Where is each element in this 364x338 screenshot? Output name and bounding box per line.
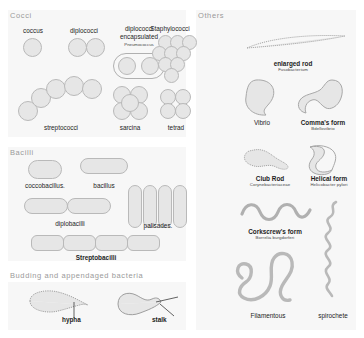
section-header-cocci: Cocci [10, 11, 32, 20]
shape-diplococci-1 [68, 38, 87, 57]
shape-sarcina-cell [121, 94, 139, 112]
sub-corynebacteriaceae: Corynebacteriaceae [232, 182, 308, 187]
section-header-budding: Budding and appendaged bacteria [10, 271, 143, 280]
sub-borrelia-burgdorferi: Borrelia burgdorferi [228, 235, 322, 240]
shape-spirochete [318, 200, 352, 306]
shape-staphylococci-cell [164, 68, 179, 83]
label-bacillus: bacillus [80, 182, 128, 189]
label-stalk: stalk [152, 316, 192, 323]
label-spirochete: spirochete [304, 312, 362, 319]
shape-coccobacillus [28, 160, 62, 179]
sub-fusobacterium: Fusobacterium [238, 67, 348, 72]
shape-tetrad-cell [175, 103, 191, 119]
shape-vibrio [240, 78, 286, 118]
sub-helicobacter-pylori: Helicobacter pylori [298, 182, 360, 187]
label-club-rod-text: Club Rod [256, 175, 284, 182]
label-vibrio: Vibrio [235, 119, 289, 126]
sub-bdellovibrio: Bdellovibrio [288, 126, 358, 131]
shape-streptobacilli-cell [31, 235, 64, 251]
label-coccus: coccus [8, 27, 58, 34]
label-diplococci: diplococci [55, 27, 113, 34]
shape-streptococci-cell [64, 76, 84, 96]
label-diplobacilli: diplobacilli [40, 220, 100, 227]
section-header-others: Others [198, 11, 224, 20]
label-corkscrews-form: Corkscrew's form Borrelia burgdorferi [228, 228, 322, 241]
label-staphylococci: Staphylococci [140, 25, 200, 32]
label-commas-form: Comma's form Bdellovibrio [288, 119, 358, 132]
section-header-bacilli: Bacilli [10, 148, 34, 157]
shape-streptococci-cell [46, 79, 66, 99]
shape-club-rod [240, 146, 296, 174]
shape-tetrad-cell [160, 103, 176, 119]
shape-streptococci-cell [82, 79, 102, 99]
shape-streptobacilli-cell [127, 235, 160, 251]
label-streptobacilli: Streptobacilli [58, 254, 134, 261]
shape-bacillus [80, 158, 128, 174]
label-helical-form-text: Helical form [311, 175, 348, 182]
label-commas-form-text: Comma's form [301, 119, 346, 126]
label-enlarged-rod: enlarged rod Fusobacterium [238, 60, 348, 73]
label-corkscrews-form-text: Corkscrew's form [248, 228, 302, 235]
label-streptococci: streptococci [26, 124, 96, 131]
shape-commas-form [292, 78, 348, 120]
shape-streptobacilli-cell [95, 235, 128, 251]
label-tetrad: tetrad [146, 124, 206, 131]
shape-streptobacilli-cell [63, 235, 96, 251]
label-club-rod: Club Rod Corynebacteriaceae [232, 175, 308, 188]
label-palisades: palisades. [132, 222, 184, 229]
shape-helical-form [300, 144, 346, 176]
shape-coccus [23, 38, 42, 57]
shape-diplobacilli-1 [24, 198, 68, 214]
label-filamentous: Filamentous [232, 312, 304, 319]
label-hypha: hypha [62, 316, 102, 323]
shape-filamentous [232, 248, 314, 310]
shape-diplobacilli-2 [67, 198, 111, 214]
label-coccobacillus: coccobacillus. [16, 182, 74, 189]
sub-pneumococcus: Pneumococcus [124, 42, 153, 47]
label-helical-form: Helical form Helicobacter pylori [298, 175, 360, 188]
shape-diplococci-encapsulated-1 [118, 57, 136, 75]
shape-enlarged-rod [245, 34, 351, 56]
shape-corkscrews-form [240, 200, 316, 226]
shape-diplococci-2 [86, 38, 105, 57]
label-enlarged-rod-text: enlarged rod [274, 60, 313, 67]
